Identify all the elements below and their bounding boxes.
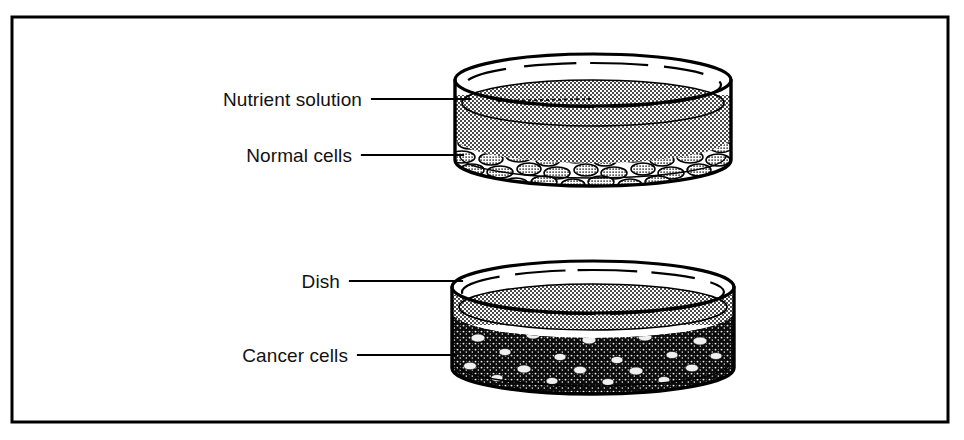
label-nutrient-solution: Nutrient solution xyxy=(223,89,362,110)
top-dish-solution-surface xyxy=(462,80,724,126)
top-dish xyxy=(449,54,740,196)
label-cancer-cells: Cancer cells xyxy=(242,345,348,366)
bottom-dish xyxy=(448,261,742,400)
cell-culture-diagram: Nutrient solution Normal cells Dish Canc… xyxy=(0,0,964,440)
label-dish: Dish xyxy=(302,271,340,292)
label-normal-cells: Normal cells xyxy=(246,145,352,166)
figure-root: Nutrient solution Normal cells Dish Canc… xyxy=(0,0,964,440)
